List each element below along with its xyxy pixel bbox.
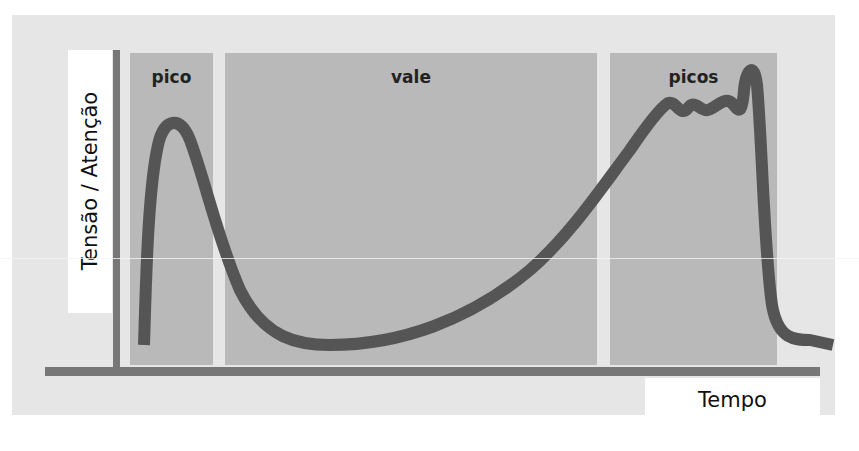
x-axis-label: Tempo bbox=[645, 378, 820, 422]
scan-artifact-line bbox=[0, 258, 859, 259]
x-axis-label-box: Tempo bbox=[645, 378, 820, 420]
